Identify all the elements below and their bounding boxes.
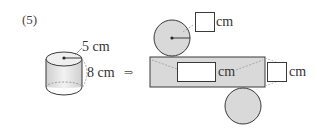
net-top-circle — [154, 20, 193, 56]
arrow-icon: ⇒ — [124, 66, 133, 78]
height-unit: cm — [289, 65, 306, 79]
radius-label: 5 cm — [82, 40, 110, 54]
net-bottom-circle — [225, 88, 261, 124]
answer-box-radius[interactable] — [195, 12, 215, 32]
cylinder-figure — [46, 48, 87, 95]
length-unit: cm — [218, 65, 235, 79]
radius-unit: cm — [216, 15, 233, 29]
answer-box-length[interactable] — [177, 62, 216, 82]
height-label: 8 cm — [87, 66, 115, 80]
answer-box-height[interactable] — [267, 62, 287, 82]
